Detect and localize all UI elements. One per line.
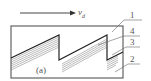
sawtooth-diagram (0, 0, 151, 81)
label-4: 4 (130, 27, 135, 36)
label-2: 2 (130, 55, 135, 64)
velocity-label: vd (78, 8, 85, 19)
panel-label: (a) (36, 66, 46, 75)
label-1: 1 (130, 11, 135, 20)
label-3: 3 (130, 38, 135, 47)
velocity-arrow (20, 11, 76, 16)
leader-lines (98, 20, 142, 72)
hatch-layers (11, 37, 118, 72)
